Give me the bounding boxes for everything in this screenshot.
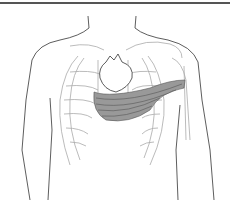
heart (100, 54, 133, 92)
torso-illustration (0, 0, 230, 209)
